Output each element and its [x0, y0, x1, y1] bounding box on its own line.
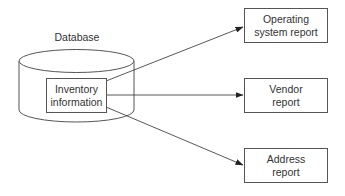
inventory-line1: Inventory — [55, 83, 98, 96]
operating-system-report-box: Operating system report — [244, 8, 328, 43]
address-report-box: Address report — [244, 148, 328, 183]
inventory-line2: information — [51, 96, 103, 109]
report-line2: report — [272, 166, 299, 179]
report-line1: Address — [267, 153, 306, 166]
vendor-report-box: Vendor report — [244, 78, 328, 113]
arrow-to-address-report — [106, 107, 243, 165]
arrow-to-operating-system-report — [106, 27, 243, 81]
database-label: Database — [47, 31, 107, 43]
report-line2: system report — [254, 26, 318, 39]
report-line1: Operating — [263, 13, 309, 26]
inventory-information-box: Inventory information — [46, 78, 107, 113]
report-line2: report — [272, 96, 299, 109]
report-line1: Vendor — [269, 83, 302, 96]
